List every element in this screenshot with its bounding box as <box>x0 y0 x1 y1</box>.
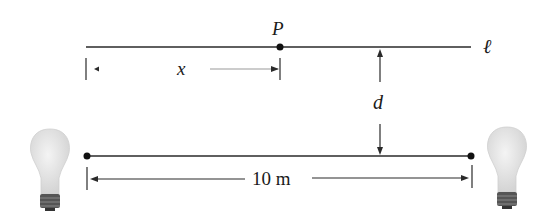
left-endpoint <box>84 153 91 160</box>
arrow-right-icon <box>271 66 279 72</box>
arrow-left-icon <box>94 67 99 72</box>
distance-label: 10 m <box>252 169 291 188</box>
point-p <box>277 44 284 51</box>
right-endpoint <box>468 153 475 160</box>
point-p-label: P <box>272 19 284 38</box>
x-label: x <box>177 59 185 78</box>
right-bulb-icon <box>488 127 527 209</box>
diagram-canvas: P ℓ x d 10 m <box>0 0 554 222</box>
d-label: d <box>373 92 383 112</box>
arrow-up-icon <box>377 49 383 57</box>
arrow-right-icon <box>461 175 469 181</box>
line-ell-label: ℓ <box>483 36 491 56</box>
arrow-down-icon <box>377 147 383 155</box>
left-bulb-icon <box>31 129 70 211</box>
